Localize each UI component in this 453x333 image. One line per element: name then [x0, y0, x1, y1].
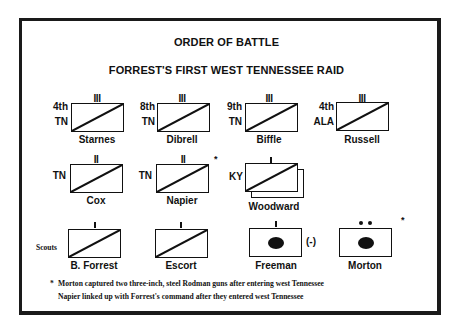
unit-name: Freeman — [236, 260, 316, 271]
unit-size-marker — [180, 222, 182, 228]
footnote-asterisk: * — [214, 154, 218, 164]
unit-size-marker — [94, 222, 96, 228]
unit-state: ALA — [308, 114, 334, 129]
unit-name: Russell — [322, 134, 402, 145]
unit-state: TN — [218, 114, 242, 129]
unit-size-marker: II — [173, 156, 193, 164]
cavalry-symbol-icon — [336, 102, 389, 131]
artillery-symbol-icon — [249, 228, 302, 257]
footnote-asterisk: * — [401, 215, 405, 225]
cavalry-symbol-icon — [71, 103, 124, 132]
unit-size-marker: II — [86, 156, 106, 164]
cavalry-symbol-icon — [155, 229, 208, 258]
artillery-symbol-icon — [339, 228, 392, 257]
cavalry-symbol-icon — [70, 164, 123, 193]
artillery-dot-icon — [268, 237, 284, 249]
footnote-line-2: Napier linked up with Forrest's command … — [58, 290, 324, 303]
cavalry-symbol-icon — [245, 163, 298, 192]
cavalry-symbol-icon — [245, 103, 298, 132]
unit-size-dot-icon — [368, 221, 372, 225]
unit-number: 9th — [218, 99, 242, 114]
footnote-bullet: * — [50, 277, 54, 290]
cavalry-symbol-icon — [68, 229, 121, 258]
unit-name: B. Forrest — [54, 260, 134, 271]
diagram-title: ORDER OF BATTLE — [0, 36, 453, 48]
unit-name: Dibrell — [142, 134, 222, 145]
footnotes: * Morton captured two three-inch, steel … — [58, 277, 324, 303]
unit-state: KY — [219, 169, 243, 184]
unit-state: TN — [44, 114, 68, 129]
unit-size-marker: III — [170, 95, 194, 103]
cavalry-symbol-icon — [157, 103, 210, 132]
unit-size-marker: III — [257, 95, 281, 103]
unit-size-marker — [275, 221, 277, 227]
unit-name: Napier — [142, 195, 222, 206]
unit-state: TN — [128, 168, 152, 183]
unit-number: 4th — [308, 99, 334, 114]
unit-name: Woodward — [234, 201, 314, 212]
cavalry-symbol-icon — [156, 164, 209, 193]
diagram-subtitle: FORREST'S FIRST WEST TENNESSEE RAID — [0, 64, 453, 76]
reduced-strength-marker: (-) — [306, 236, 316, 247]
unit-number: 8th — [131, 99, 155, 114]
unit-number: 4th — [44, 99, 68, 114]
unit-size-dot-icon — [359, 221, 363, 225]
unit-name: Biffle — [229, 134, 309, 145]
unit-state: TN — [42, 168, 66, 183]
unit-name: Cox — [56, 195, 136, 206]
artillery-dot-icon — [358, 237, 374, 249]
unit-state: TN — [131, 114, 155, 129]
unit-name: Starnes — [57, 134, 137, 145]
footnote-line-1: Morton captured two three-inch, steel Ro… — [58, 277, 324, 290]
unit-name: Morton — [325, 260, 405, 271]
unit-label-scouts: Scouts — [36, 243, 57, 252]
unit-name: Escort — [141, 260, 221, 271]
unit-size-marker: III — [85, 95, 109, 103]
